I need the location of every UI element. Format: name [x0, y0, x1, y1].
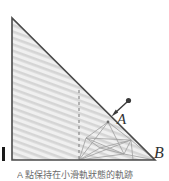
figure-caption: A 點保持在小滑軌狀態的軌跡: [17, 170, 167, 181]
vertex-label-a: A: [117, 112, 126, 127]
point-on-hypotenuse: [107, 121, 110, 124]
vertex-label-b: B: [154, 145, 164, 161]
figure-canvas: [0, 0, 169, 181]
geometry-figure: A B A 點保持在小滑軌狀態的軌跡: [0, 0, 169, 181]
left-edge-tick: [2, 147, 5, 161]
